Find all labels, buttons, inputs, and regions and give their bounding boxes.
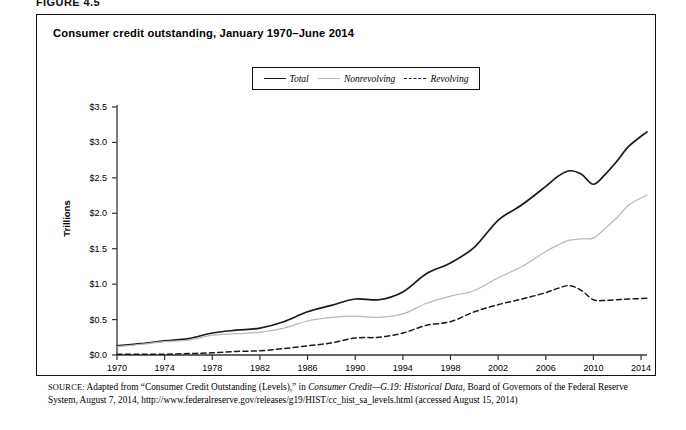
- series-line-nonrevolving: [117, 195, 647, 347]
- source-text-1: Adapted from “Consumer Credit Outstandin…: [85, 382, 308, 392]
- source-prefix: SOURCE:: [48, 383, 85, 392]
- figure-container: Consumer credit outstanding, January 197…: [36, 14, 656, 376]
- chart-svg: [37, 15, 657, 377]
- source-note: SOURCE: Adapted from “Consumer Credit Ou…: [48, 381, 648, 407]
- figure-label: FIGURE 4.5: [36, 0, 100, 8]
- source-italic-1: Consumer Credit—G.19: Historical Data: [308, 382, 463, 392]
- series-line-total: [117, 132, 647, 346]
- series-line-revolving: [117, 286, 647, 355]
